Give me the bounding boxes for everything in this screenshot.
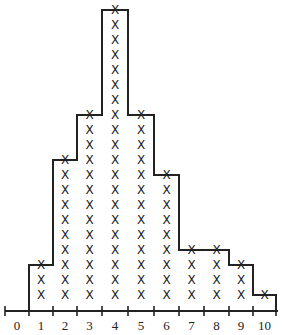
x-mark: X xyxy=(61,288,69,302)
x-mark: X xyxy=(85,273,93,287)
x-mark: X xyxy=(162,228,170,242)
x-mark: X xyxy=(111,273,119,287)
x-mark: X xyxy=(111,258,119,272)
chart-canvas: 01XXX2XXXXXXXXXX3XXXXXXXXXXXXX4XXXXXXXXX… xyxy=(0,0,282,335)
x-mark: X xyxy=(111,33,119,47)
x-mark: X xyxy=(137,273,145,287)
x-mark: X xyxy=(212,273,220,287)
x-tick-label: 1 xyxy=(38,318,45,333)
x-mark: X xyxy=(37,288,45,302)
x-mark: X xyxy=(111,213,119,227)
x-mark: X xyxy=(61,258,69,272)
x-mark: X xyxy=(61,243,69,257)
x-tick-label: 2 xyxy=(62,318,69,333)
x-mark: X xyxy=(187,273,195,287)
x-mark: X xyxy=(85,228,93,242)
x-mark: X xyxy=(137,213,145,227)
x-mark: X xyxy=(162,213,170,227)
x-mark: X xyxy=(85,168,93,182)
x-tick-label: 9 xyxy=(238,318,245,333)
x-mark: X xyxy=(111,18,119,32)
x-mark: X xyxy=(237,273,245,287)
x-mark: X xyxy=(137,288,145,302)
x-mark: X xyxy=(37,273,45,287)
x-tick-label: 0 xyxy=(14,318,21,333)
x-tick-label: 10 xyxy=(258,318,271,333)
x-mark: X xyxy=(162,273,170,287)
x-mark: X xyxy=(137,243,145,257)
x-tick-label: 6 xyxy=(163,318,170,333)
x-mark: X xyxy=(61,213,69,227)
x-mark: X xyxy=(85,153,93,167)
x-mark: X xyxy=(61,198,69,212)
x-mark: X xyxy=(111,78,119,92)
x-mark: X xyxy=(85,258,93,272)
x-mark: X xyxy=(61,168,69,182)
x-mark: X xyxy=(85,213,93,227)
x-mark: X xyxy=(111,48,119,62)
x-mark: X xyxy=(137,198,145,212)
x-mark: X xyxy=(187,258,195,272)
x-mark: X xyxy=(212,258,220,272)
x-mark: X xyxy=(212,288,220,302)
x-mark: X xyxy=(61,228,69,242)
x-mark: X xyxy=(85,198,93,212)
x-mark: X xyxy=(162,258,170,272)
x-mark: X xyxy=(111,93,119,107)
x-mark: X xyxy=(162,288,170,302)
x-mark: X xyxy=(85,288,93,302)
x-mark: X xyxy=(137,183,145,197)
x-mark: X xyxy=(85,138,93,152)
x-mark: X xyxy=(162,183,170,197)
x-mark: X xyxy=(111,108,119,122)
x-mark: X xyxy=(111,123,119,137)
x-mark: X xyxy=(137,138,145,152)
x-mark: X xyxy=(85,243,93,257)
x-tick-label: 7 xyxy=(188,318,195,333)
x-mark: X xyxy=(237,288,245,302)
x-mark: X xyxy=(137,123,145,137)
x-mark: X xyxy=(111,63,119,77)
x-mark: X xyxy=(137,153,145,167)
x-tick-label: 8 xyxy=(213,318,220,333)
x-mark: X xyxy=(162,243,170,257)
x-tick-label: 3 xyxy=(86,318,93,333)
x-mark: X xyxy=(187,288,195,302)
x-mark: X xyxy=(137,228,145,242)
x-mark: X xyxy=(111,138,119,152)
x-mark: X xyxy=(111,198,119,212)
x-mark: X xyxy=(111,183,119,197)
x-mark: X xyxy=(137,258,145,272)
x-mark: X xyxy=(137,168,145,182)
x-mark: X xyxy=(85,123,93,137)
x-mark: X xyxy=(162,198,170,212)
x-mark: X xyxy=(111,228,119,242)
x-tick-label: 4 xyxy=(112,318,119,333)
x-mark: X xyxy=(111,288,119,302)
x-mark: X xyxy=(85,183,93,197)
x-mark: X xyxy=(111,168,119,182)
x-mark: X xyxy=(61,273,69,287)
dot-plot-chart: 01XXX2XXXXXXXXXX3XXXXXXXXXXXXX4XXXXXXXXX… xyxy=(0,0,282,335)
x-mark: X xyxy=(61,183,69,197)
x-tick-label: 5 xyxy=(138,318,145,333)
x-mark: X xyxy=(111,153,119,167)
x-mark: X xyxy=(111,243,119,257)
